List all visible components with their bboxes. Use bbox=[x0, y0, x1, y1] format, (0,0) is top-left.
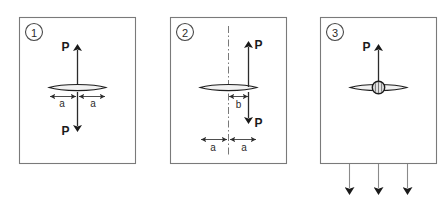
panel-1-badge-label: 1 bbox=[31, 27, 37, 39]
panel-3-badge-label: 3 bbox=[332, 27, 338, 39]
panel-1-dim-right-label: a bbox=[90, 98, 96, 109]
diagram-canvas: 1 P P a a 2 bbox=[0, 0, 448, 201]
force-diagram-figure: 1 P P a a 2 bbox=[0, 0, 448, 201]
panel-2-force-bottom-label: P bbox=[254, 116, 262, 130]
panel-2-dim-left-label: a bbox=[210, 142, 216, 153]
panel-2: 2 P P b a a bbox=[171, 18, 287, 164]
panel-1-force-top-label: P bbox=[61, 40, 69, 54]
panel-1-dim-left-label: a bbox=[59, 98, 65, 109]
panel-3: 3 P bbox=[321, 18, 437, 189]
panel-2-dim-offset-label: b bbox=[236, 99, 242, 110]
panel-1-force-bottom-label: P bbox=[61, 124, 69, 138]
panel-3-force-top-label: P bbox=[362, 40, 370, 54]
panel-2-force-top-label: P bbox=[254, 38, 262, 52]
panel-1: 1 P P a a bbox=[20, 18, 136, 164]
panel-3-pin-hub bbox=[372, 81, 384, 93]
panel-1-lens-element bbox=[49, 84, 106, 90]
panel-3-distributed-reactions bbox=[350, 164, 408, 188]
panel-2-dim-right-label: a bbox=[241, 142, 247, 153]
panel-2-badge-label: 2 bbox=[182, 27, 188, 39]
